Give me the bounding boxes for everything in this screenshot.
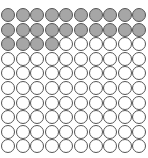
empty-dot: [1, 52, 15, 66]
empty-dot: [132, 125, 146, 139]
empty-dot: [118, 52, 132, 66]
empty-dot: [89, 37, 103, 51]
empty-dot: [89, 125, 103, 139]
empty-dot: [16, 52, 30, 66]
filled-dot: [30, 23, 44, 37]
filled-dot: [103, 8, 117, 22]
empty-dot: [118, 96, 132, 110]
empty-dot: [103, 96, 117, 110]
empty-dot: [118, 37, 132, 51]
empty-dot: [30, 66, 44, 80]
empty-dot: [118, 139, 132, 153]
filled-dot: [16, 23, 30, 37]
empty-dot: [132, 110, 146, 124]
empty-dot: [30, 125, 44, 139]
empty-dot: [103, 66, 117, 80]
empty-dot: [74, 37, 88, 51]
filled-dot: [118, 8, 132, 22]
empty-dot: [132, 66, 146, 80]
empty-dot: [118, 66, 132, 80]
empty-dot: [74, 96, 88, 110]
filled-dot: [132, 8, 146, 22]
empty-dot: [103, 139, 117, 153]
empty-dot: [132, 96, 146, 110]
empty-dot: [30, 96, 44, 110]
empty-dot: [1, 125, 15, 139]
empty-dot: [16, 81, 30, 95]
filled-dot: [16, 37, 30, 51]
empty-dot: [103, 110, 117, 124]
empty-dot: [59, 37, 73, 51]
empty-dot: [103, 125, 117, 139]
empty-dot: [74, 66, 88, 80]
empty-dot: [30, 81, 44, 95]
empty-dot: [16, 125, 30, 139]
waffle-grid: [1, 8, 148, 154]
empty-dot: [1, 66, 15, 80]
filled-dot: [16, 8, 30, 22]
empty-dot: [30, 110, 44, 124]
empty-dot: [45, 96, 59, 110]
empty-dot: [103, 37, 117, 51]
filled-dot: [132, 23, 146, 37]
filled-dot: [59, 23, 73, 37]
empty-dot: [59, 139, 73, 153]
empty-dot: [74, 81, 88, 95]
empty-dot: [118, 110, 132, 124]
empty-dot: [45, 110, 59, 124]
empty-dot: [59, 81, 73, 95]
empty-dot: [30, 139, 44, 153]
empty-dot: [132, 52, 146, 66]
empty-dot: [89, 66, 103, 80]
empty-dot: [16, 96, 30, 110]
empty-dot: [1, 96, 15, 110]
filled-dot: [103, 23, 117, 37]
filled-dot: [30, 37, 44, 51]
empty-dot: [16, 66, 30, 80]
empty-dot: [103, 81, 117, 95]
empty-dot: [118, 125, 132, 139]
empty-dot: [45, 81, 59, 95]
empty-dot: [74, 110, 88, 124]
filled-dot: [30, 8, 44, 22]
empty-dot: [16, 110, 30, 124]
filled-dot: [45, 8, 59, 22]
empty-dot: [89, 81, 103, 95]
empty-dot: [118, 81, 132, 95]
empty-dot: [74, 139, 88, 153]
filled-dot: [74, 23, 88, 37]
empty-dot: [132, 81, 146, 95]
filled-dot: [89, 8, 103, 22]
empty-dot: [59, 96, 73, 110]
empty-dot: [45, 66, 59, 80]
filled-dot: [45, 23, 59, 37]
empty-dot: [45, 52, 59, 66]
empty-dot: [132, 37, 146, 51]
empty-dot: [74, 52, 88, 66]
empty-dot: [103, 52, 117, 66]
empty-dot: [74, 125, 88, 139]
empty-dot: [16, 139, 30, 153]
empty-dot: [59, 52, 73, 66]
filled-dot: [74, 8, 88, 22]
empty-dot: [89, 96, 103, 110]
empty-dot: [59, 125, 73, 139]
filled-dot: [118, 23, 132, 37]
filled-dot: [45, 37, 59, 51]
filled-dot: [1, 8, 15, 22]
filled-dot: [89, 23, 103, 37]
empty-dot: [1, 110, 15, 124]
empty-dot: [89, 110, 103, 124]
empty-dot: [132, 139, 146, 153]
empty-dot: [1, 81, 15, 95]
empty-dot: [89, 52, 103, 66]
empty-dot: [59, 66, 73, 80]
filled-dot: [1, 37, 15, 51]
empty-dot: [30, 52, 44, 66]
filled-dot: [1, 23, 15, 37]
empty-dot: [1, 139, 15, 153]
empty-dot: [59, 110, 73, 124]
empty-dot: [45, 125, 59, 139]
empty-dot: [89, 139, 103, 153]
empty-dot: [45, 139, 59, 153]
